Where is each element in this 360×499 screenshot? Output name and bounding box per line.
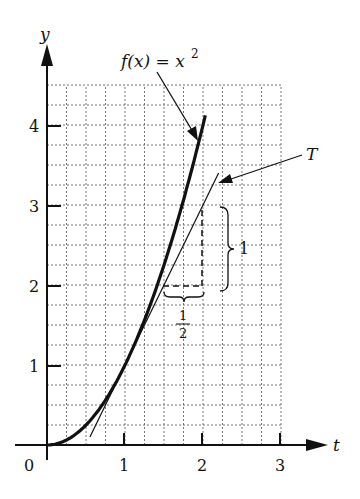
run-numerator: 1 — [179, 308, 187, 323]
tangent-label: T — [306, 144, 319, 164]
x-axis-arrow-icon — [306, 439, 328, 451]
x-tick-1: 1 — [119, 456, 129, 475]
x-tick-2: 2 — [197, 456, 207, 475]
y-tick-3: 3 — [29, 197, 39, 216]
y-tick-2: 2 — [29, 277, 39, 296]
f-arrow-head-icon — [187, 126, 198, 141]
rise-label: 1 — [239, 239, 249, 258]
x-tick-3: 3 — [275, 456, 285, 475]
y-tick-1: 1 — [29, 357, 39, 376]
origin-label: 0 — [24, 456, 34, 475]
x-axis-label: t — [333, 435, 340, 455]
t-arrow-head-icon — [218, 174, 233, 183]
run-denominator: 2 — [179, 326, 187, 341]
f-arrow — [157, 72, 193, 132]
function-exponent: 2 — [191, 47, 199, 61]
y-tick-4: 4 — [29, 117, 39, 136]
y-axis-label: y — [39, 24, 50, 44]
y-axis-arrow-icon — [41, 44, 53, 66]
t-arrow — [228, 155, 302, 180]
graph: y t 0 1 2 3 1 2 3 4 f(x) = x 2 T 1 1 2 — [0, 0, 360, 499]
parabola-curve — [47, 115, 205, 445]
function-label: f(x) = x — [119, 51, 185, 71]
